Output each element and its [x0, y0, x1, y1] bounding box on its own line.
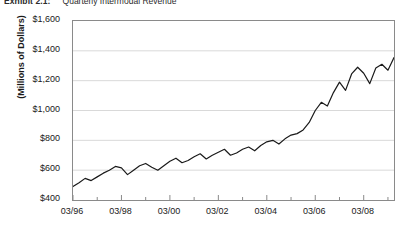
revenue-line-series [73, 58, 394, 187]
chart-container: Exhibit 2.1:Quarterly Intermodal Revenue… [0, 0, 402, 238]
x-axis-tick-label: 03/96 [61, 206, 84, 216]
x-axis-tick-label: 03/04 [255, 206, 278, 216]
y-axis-tick-label: $1,000 [14, 105, 60, 114]
chart-plot-svg [73, 21, 394, 200]
x-axis-tick-label: 03/00 [158, 206, 181, 216]
x-axis-tick-label: 03/08 [351, 206, 374, 216]
y-axis-tick-label: $800 [14, 134, 60, 143]
y-axis-tick-label: $400 [14, 194, 60, 203]
gridlines [73, 51, 394, 170]
exhibit-text: Quarterly Intermodal Revenue [63, 0, 177, 6]
x-axis-tick-label: 03/98 [109, 206, 132, 216]
y-axis-tick-label: $1,400 [14, 45, 60, 54]
y-axis-tick-label: $1,200 [14, 75, 60, 84]
chart-title: Exhibit 2.1:Quarterly Intermodal Revenue [4, 0, 398, 7]
x-axis-tick-label: 03/02 [206, 206, 229, 216]
y-axis-tick-labels: $400$600$800$1,000$1,200$1,400$1,600 [14, 0, 60, 238]
plot-area [72, 20, 395, 201]
y-axis-tick-label: $600 [14, 164, 60, 173]
x-axis-ticks [73, 195, 388, 200]
x-axis-tick-labels: 03/9603/9803/0003/0203/0403/0603/08 [0, 206, 402, 222]
y-axis-tick-label: $1,600 [14, 15, 60, 24]
x-axis-tick-label: 03/06 [303, 206, 326, 216]
